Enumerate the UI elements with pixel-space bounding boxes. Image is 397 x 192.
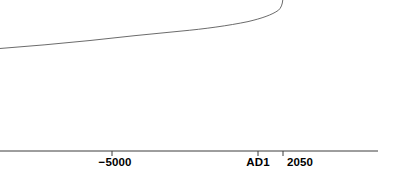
- tick-label-text: −5000: [99, 157, 132, 169]
- population-growth-curve: [0, 0, 283, 49]
- tick-label-text: AD1: [246, 157, 269, 169]
- growth-curve-group: [0, 0, 283, 49]
- tick-label-text: 2050: [287, 157, 313, 169]
- x-axis-tick-label-0: −5000: [99, 157, 132, 169]
- chart-figure: −5000AD12050: [0, 0, 397, 192]
- plot-area: [0, 0, 397, 192]
- x-axis-group: [0, 151, 378, 156]
- x-axis-tick-label-1: AD1: [246, 157, 269, 169]
- x-axis-tick-label-2: 2050: [287, 157, 313, 169]
